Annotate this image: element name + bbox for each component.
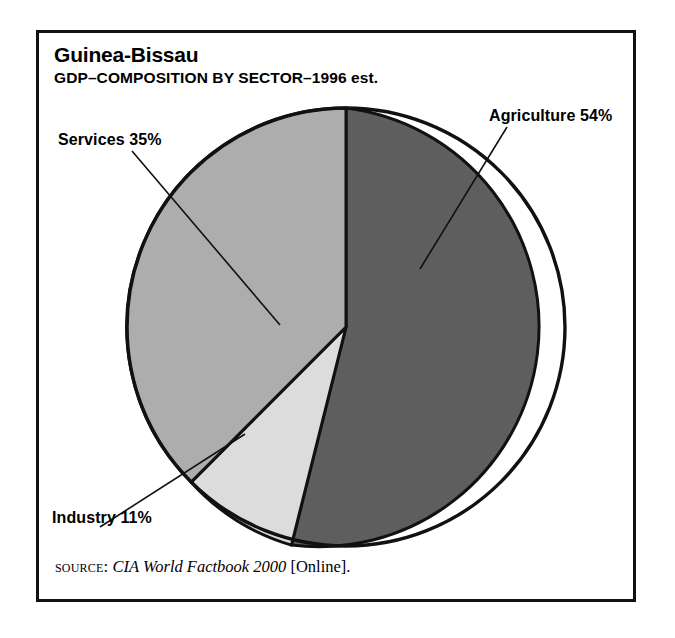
slice-label-industry: Industry 11% — [52, 509, 152, 527]
slice-label-services: Services 35% — [58, 131, 162, 149]
source-note: SOURCE: CIA World Factbook 2000 [Online]… — [55, 557, 350, 577]
source-availability: [Online]. — [290, 557, 350, 576]
slice-label-agriculture: Agriculture 54% — [489, 107, 612, 125]
source-work-title: CIA World Factbook 2000 — [113, 557, 287, 576]
source-label: SOURCE: — [55, 557, 108, 576]
figure-root: Guinea-Bissau GDP–COMPOSITION BY SECTOR–… — [0, 0, 675, 638]
